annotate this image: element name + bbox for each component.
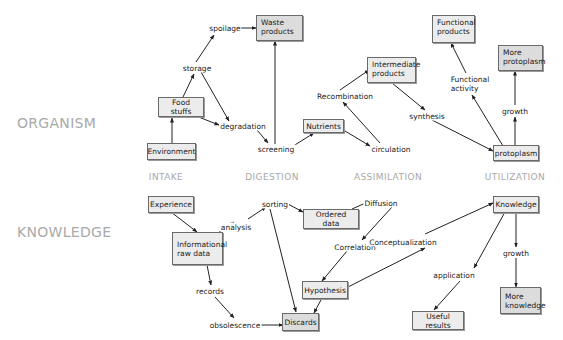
box-discards: Discards — [282, 313, 319, 331]
process-diffusion: Diffusion — [363, 199, 398, 208]
box-environment: Environment — [147, 143, 196, 160]
box-knowledge: Knowledge — [493, 196, 539, 213]
box-waste-products: Waste products — [256, 15, 303, 41]
column-label-utilization: UTILIZATION — [485, 172, 545, 182]
process-degradation: degradation — [219, 122, 267, 131]
column-label-assimilation: ASSIMILATION — [354, 172, 422, 182]
box-intermediate-products: Intermediate products — [367, 57, 416, 83]
box-useful-results: Useful results — [412, 311, 464, 330]
process-conceptualization: Conceptualization — [368, 238, 437, 247]
box-experience: Experience — [148, 196, 194, 213]
process-obsolescence: obsolescence — [209, 321, 262, 330]
process-analysis: analysis — [220, 223, 252, 232]
box-more-knowledge: More knowledge — [500, 287, 541, 314]
box-more-protoplasm: More protoplasm — [498, 45, 543, 71]
organism-knowledge-analogy-diagram: ORGANISM KNOWLEDGE INTAKE DIGESTION ASSI… — [0, 0, 563, 340]
column-label-intake: INTAKE — [149, 172, 183, 182]
process-sorting: sorting — [261, 200, 289, 209]
process-circulation: circulation — [370, 145, 411, 154]
box-protoplasm: protoplasm — [493, 145, 539, 161]
box-ordered-data: Ordered data — [303, 209, 359, 229]
process-spoilage: spoilage — [208, 24, 241, 33]
box-informational-raw-data: Informational raw data — [172, 232, 223, 265]
process-recombination: Recombination — [316, 92, 374, 101]
process-storage: storage — [182, 64, 213, 73]
box-functional-products: Functional products — [432, 15, 475, 43]
process-synthesis: synthesis — [408, 112, 445, 121]
column-label-digestion: DIGESTION — [245, 172, 299, 182]
diagram-edges — [0, 0, 563, 340]
row-label-knowledge: KNOWLEDGE — [17, 224, 111, 240]
process-application: application — [432, 271, 475, 280]
box-nutrients: Nutrients — [303, 119, 344, 133]
process-screening: screening — [257, 145, 296, 154]
box-food-stuffs: Food stuffs — [158, 97, 204, 117]
process-growth-organism: growth — [501, 107, 529, 116]
process-functional-activity: Functional activity — [450, 75, 491, 93]
process-records: records — [195, 287, 225, 296]
row-label-organism: ORGANISM — [17, 115, 96, 131]
box-hypothesis: Hypothesis — [302, 281, 348, 299]
process-growth-knowledge: growth — [502, 249, 530, 258]
